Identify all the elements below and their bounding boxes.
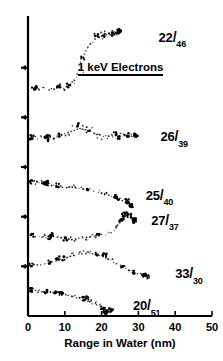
scatter-series-track-2 — [28, 122, 139, 142]
x-tick-label-30: 30 — [132, 322, 144, 333]
plot-canvas — [0, 0, 223, 361]
x-tick-label-40: 40 — [169, 322, 181, 333]
track-label-denominator: 40 — [164, 197, 174, 207]
figure-title: 1 keV Electrons — [78, 61, 164, 76]
y-axis-arrow-icon — [21, 264, 26, 269]
y-axis-arrow-icon — [21, 115, 26, 120]
x-axis-title: Range in Water (nm) — [64, 338, 175, 350]
x-tick-label-10: 10 — [59, 322, 71, 333]
track-label-20-51: 20/51 — [133, 298, 160, 316]
scatter-series-track-5 — [28, 250, 150, 279]
scatter-series-track-4 — [30, 211, 138, 242]
track-label-numerator: 27 — [151, 213, 165, 228]
track-label-denominator: 37 — [169, 222, 179, 232]
y-axis-arrow-icon — [21, 65, 26, 70]
track-label-numerator: 25 — [146, 188, 160, 203]
track-label-22-46: 22/46 — [159, 30, 186, 48]
track-label-denominator: 30 — [193, 276, 203, 286]
track-label-numerator: 33 — [175, 266, 189, 281]
track-label-25-40: 25/40 — [146, 188, 173, 206]
scatter-series-track-3 — [28, 179, 134, 208]
x-tick-label-0: 0 — [25, 322, 31, 333]
fraction-slash: / — [160, 187, 164, 203]
track-label-denominator: 51 — [151, 308, 161, 318]
x-tick-label-20: 20 — [95, 322, 107, 333]
track-label-33-30: 33/30 — [175, 266, 202, 284]
track-label-denominator: 39 — [178, 139, 188, 149]
x-tick-label-50: 50 — [206, 322, 218, 333]
scatter-series-track-1 — [31, 28, 122, 91]
y-axis-arrow-icon — [21, 164, 26, 169]
track-label-numerator: 22 — [159, 30, 173, 45]
track-label-numerator: 26 — [161, 129, 175, 144]
track-label-numerator: 20 — [133, 298, 147, 313]
track-label-27-37: 27/37 — [151, 213, 178, 231]
y-axis-arrow-icon — [21, 214, 26, 219]
track-structure-figure: 22/46 26/39 25/40 27/37 33/30 20/51 1 ke… — [0, 0, 223, 361]
track-label-denominator: 46 — [176, 39, 186, 49]
track-label-26-39: 26/39 — [161, 129, 188, 147]
